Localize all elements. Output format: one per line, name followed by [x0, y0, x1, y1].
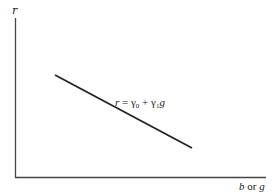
eq-equals-gamma: = γ	[119, 96, 136, 108]
eq-g: g	[159, 96, 165, 108]
regression-line	[55, 75, 192, 148]
x-label-g: g	[259, 180, 265, 192]
y-axis-label: r	[12, 5, 17, 16]
figure: r r = γ0 + γ1g b or g	[0, 0, 275, 196]
x-axis-label: b or g	[239, 181, 265, 192]
equation-label: r = γ0 + γ1g	[115, 97, 165, 110]
x-label-or: or	[245, 180, 260, 192]
eq-plus-gamma: + γ	[139, 96, 156, 108]
